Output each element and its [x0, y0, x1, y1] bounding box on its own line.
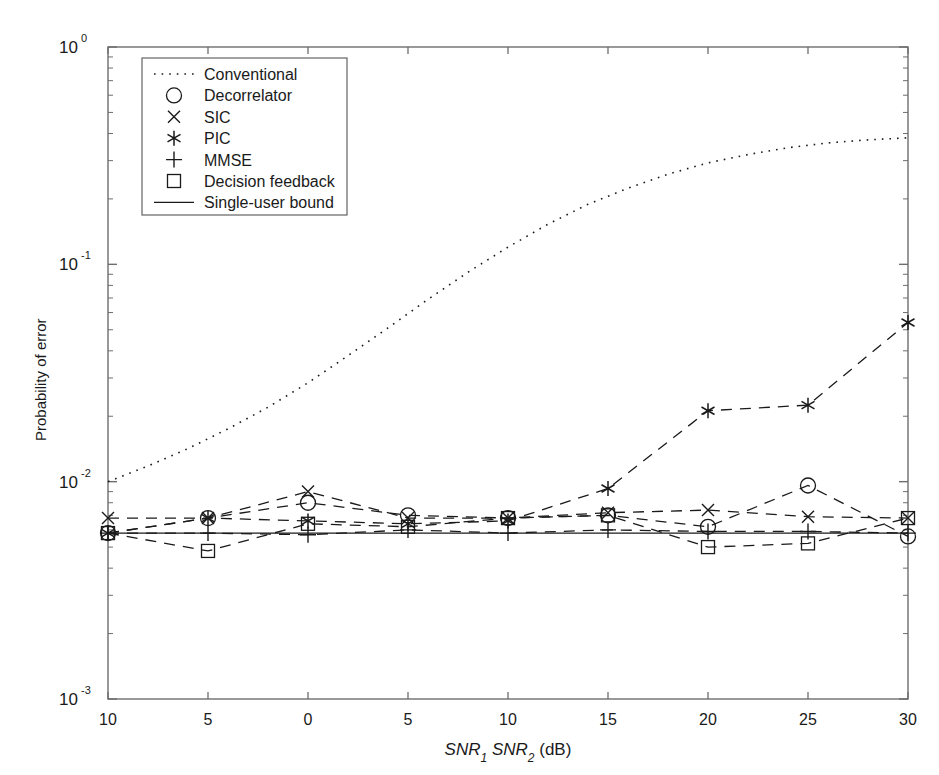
x-tick-label: 25 [799, 711, 817, 728]
marker-asterisk [602, 481, 615, 496]
legend-label: Decision feedback [204, 173, 336, 190]
x-tick-label: 5 [204, 711, 213, 728]
x-tick-label: 10 [499, 711, 517, 728]
legend: ConventionalDecorrelatorSICPICMMSEDecisi… [142, 58, 347, 215]
series-pic [102, 315, 915, 541]
legend-label: MMSE [204, 152, 252, 169]
y-tick-label: 10 [59, 38, 78, 57]
y-tick-exponent: 0 [81, 32, 87, 44]
x-tick-label: 15 [599, 711, 617, 728]
marker-plus [300, 527, 316, 543]
x-tick-label: 20 [699, 711, 717, 728]
legend-label: Single-user bound [204, 194, 334, 211]
y-tick-label: 10 [59, 690, 78, 709]
marker-plus [600, 522, 616, 538]
x-tick-label: 0 [304, 711, 313, 728]
legend-label: Conventional [204, 66, 297, 83]
x-axis-label: SNR1 SNR2 (dB) [445, 740, 572, 765]
y-tick-label: 10 [59, 255, 78, 274]
legend-label: SIC [204, 109, 231, 126]
chart-figure: 10505101520253010-310-210-1100Convention… [0, 0, 939, 775]
y-tick-exponent: -2 [81, 467, 91, 479]
y-axis-label: Probability of error [32, 318, 49, 441]
x-tick-label: 10 [99, 711, 117, 728]
y-tick-label: 10 [59, 473, 78, 492]
y-tick-exponent: -1 [81, 249, 91, 261]
y-tick-exponent: -3 [81, 684, 91, 696]
marker-asterisk [902, 315, 915, 330]
legend-label: Decorrelator [204, 87, 293, 104]
chart-canvas: 10505101520253010-310-210-1100Convention… [0, 0, 939, 775]
x-tick-label: 5 [404, 711, 413, 728]
legend-label: PIC [204, 130, 231, 147]
x-tick-label: 30 [899, 711, 917, 728]
series-line [108, 322, 908, 533]
